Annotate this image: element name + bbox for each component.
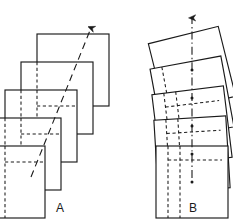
axis-center-marker [191,181,194,184]
square-outline [0,146,45,218]
panel-b: B [148,18,233,218]
figure-container: A [0,0,233,223]
panel-a: A [0,28,109,218]
panel-a-label: A [56,201,64,215]
axis-center-marker [191,125,194,128]
panel-a-square-5 [0,146,45,218]
axis-center-marker [191,153,194,156]
axis-center-marker [191,69,194,72]
diagram-svg: A [0,0,233,223]
axis-center-marker [191,97,194,100]
panel-b-label: B [189,201,197,215]
